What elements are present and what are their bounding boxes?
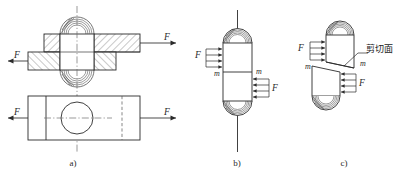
lower-plate-left <box>28 52 60 70</box>
force-label-a-right-top: F <box>163 32 170 42</box>
distributed-force-right-b <box>253 77 269 98</box>
force-label-c-left: F <box>297 43 304 53</box>
moment-label-c-right: m <box>360 59 366 68</box>
force-label-c-right: F <box>358 78 365 88</box>
distributed-force-right-c <box>341 72 356 93</box>
distributed-force-left-c <box>310 40 325 61</box>
panel-caption-a: a) <box>70 158 77 168</box>
panel-a-plan-view <box>8 96 176 140</box>
force-arrow-a-top-right <box>140 41 176 46</box>
panel-a: F F F F a) <box>8 6 176 168</box>
rivet-lower-half-c <box>312 66 340 110</box>
engineering-diagram: F F F F a) <box>0 0 402 182</box>
figure-root: F F F F a) <box>0 0 402 182</box>
moment-label-c-left: m <box>305 62 311 71</box>
force-label-a-left-bottom: F <box>13 107 20 117</box>
lower-plate-right-stub <box>94 52 116 70</box>
panel-c: F F m m 剪切面 c) <box>297 21 393 168</box>
panel-caption-b: b) <box>233 158 241 168</box>
upper-plate-right <box>94 34 140 52</box>
rivet-head-top-b <box>223 29 252 44</box>
force-arrow-a-plan-right <box>140 116 176 121</box>
rivet-shank-b <box>223 43 252 101</box>
panel-caption-c: c) <box>341 158 348 168</box>
force-label-b-left: F <box>194 50 201 60</box>
distributed-force-left-b <box>206 47 222 68</box>
force-label-b-right: F <box>271 83 278 93</box>
force-label-a-left-top: F <box>13 50 20 60</box>
moment-label-b-right: m <box>256 67 262 76</box>
shear-plane-annotation: 剪切面 <box>366 43 393 54</box>
force-label-a-right-bottom: F <box>163 107 170 117</box>
rivet-head-bottom-b <box>223 101 252 116</box>
upper-plate-left-stub <box>44 34 60 52</box>
moment-label-b-left: m <box>214 69 220 78</box>
panel-b: F F m m b) <box>194 10 278 168</box>
